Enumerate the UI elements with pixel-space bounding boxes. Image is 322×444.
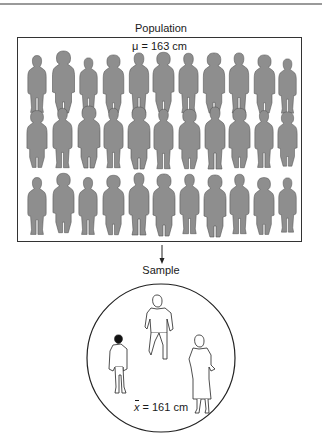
population-crowd	[18, 38, 303, 243]
sample-title: Sample	[0, 264, 322, 276]
population-box: μ = 163 cm	[17, 37, 302, 242]
down-arrow-icon	[159, 245, 165, 265]
population-title: Population	[0, 22, 322, 34]
xbar-symbol: x	[134, 401, 140, 413]
population-mean-label: μ = 163 cm	[18, 40, 301, 52]
sample-mean-value: = 161 cm	[139, 401, 188, 413]
crowd-row-3	[28, 173, 296, 237]
top-rule	[0, 3, 322, 5]
crowd-row-2	[27, 106, 297, 169]
sample-mean-label: x = 161 cm	[0, 401, 322, 413]
crowd-row-1	[28, 51, 296, 113]
